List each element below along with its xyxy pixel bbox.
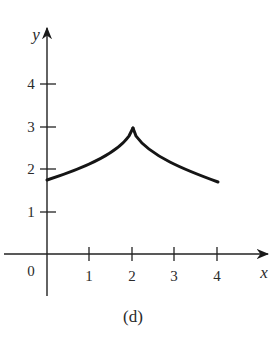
y-axis-label: y	[30, 25, 40, 44]
y-tick-label: 2	[27, 161, 35, 177]
figure-caption: (d)	[123, 307, 143, 326]
x-tick-label: 1	[85, 268, 93, 284]
x-axis-label: x	[259, 263, 268, 282]
chart: 1 2 3 4 1 2 3 4 0 x y (d)	[0, 0, 272, 341]
y-tick-label: 4	[27, 76, 35, 92]
x-tick-label: 2	[128, 268, 136, 284]
y-tick-label: 1	[27, 204, 35, 220]
y-ticks	[40, 84, 56, 212]
y-tick-label: 3	[27, 119, 35, 135]
curve-right-branch	[133, 128, 218, 182]
x-tick-label: 3	[170, 268, 178, 284]
x-tick-label: 4	[213, 268, 221, 284]
curve-left-branch	[47, 128, 133, 180]
origin-label: 0	[27, 263, 35, 279]
